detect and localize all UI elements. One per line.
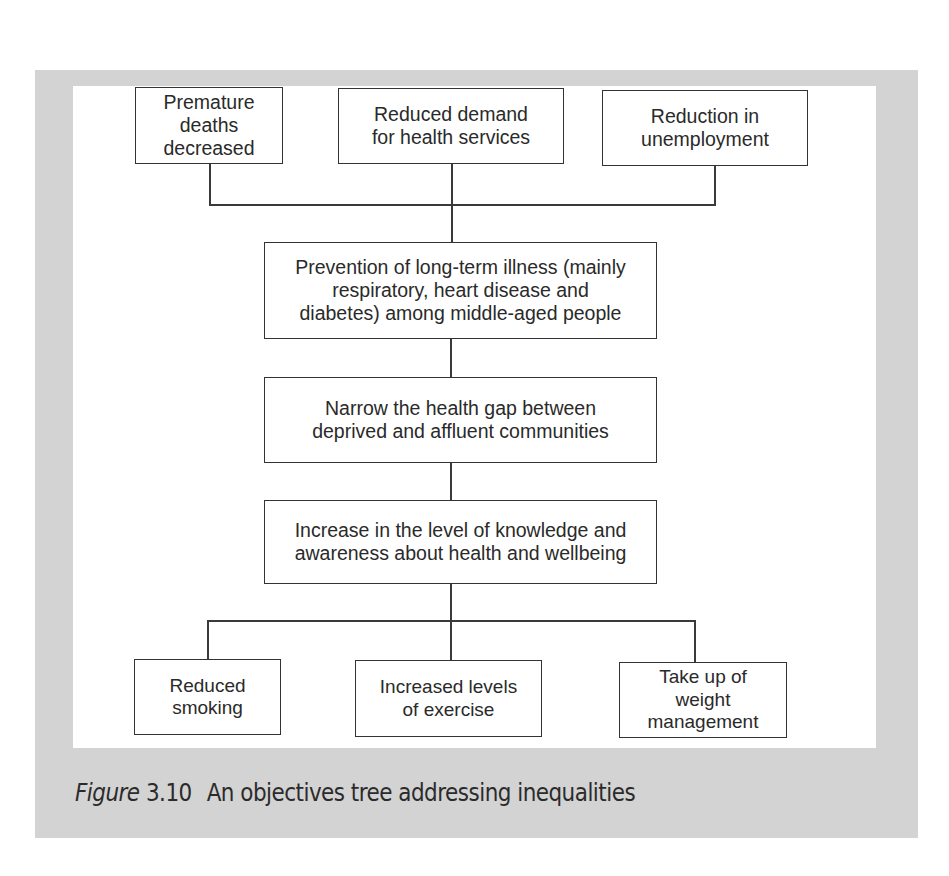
node-reduced-smoking: Reduced smoking — [134, 659, 281, 735]
node-text: Premature deaths decreased — [163, 91, 254, 160]
node-line: Reduced — [169, 675, 245, 698]
node-text: Increased levels of exercise — [380, 676, 517, 721]
connector-weight-management — [694, 620, 696, 662]
connector-gap-to-knowledge — [450, 463, 452, 500]
node-text: Reduced demand for health services — [372, 103, 530, 149]
node-line: Prevention of long-term illness (mainly — [295, 256, 626, 279]
node-text: Reduced smoking — [169, 675, 245, 720]
figure-label: Figure — [75, 778, 140, 807]
node-line: management — [648, 711, 759, 734]
node-line: unemployment — [641, 128, 769, 151]
connector-knowledge-down — [450, 584, 452, 660]
node-text: Prevention of long-term illness (mainly … — [295, 256, 626, 325]
node-line: smoking — [169, 697, 245, 720]
node-line: Increased levels — [380, 676, 517, 699]
node-line: Reduced demand — [372, 103, 530, 126]
figure-title: An objectives tree addressing inequaliti… — [207, 778, 635, 807]
node-increase-knowledge: Increase in the level of knowledge and a… — [264, 500, 657, 584]
node-line: deaths — [163, 114, 254, 137]
connector-reduced-smoking — [207, 620, 209, 659]
connector-top-bar — [209, 204, 715, 206]
connector-premature-deaths — [209, 164, 211, 206]
connector-prevention-to-gap — [450, 339, 452, 377]
node-line: diabetes) among middle-aged people — [295, 302, 626, 325]
node-weight-management: Take up of weight management — [619, 662, 787, 738]
node-prevention-illness: Prevention of long-term illness (mainly … — [264, 242, 657, 339]
node-increased-exercise: Increased levels of exercise — [355, 660, 542, 737]
node-narrow-health-gap: Narrow the health gap between deprived a… — [264, 377, 657, 463]
connector-reduction-unemployment — [714, 166, 716, 206]
figure-number: 3.10 — [146, 778, 192, 807]
node-line: Increase in the level of knowledge and — [295, 519, 627, 542]
node-line: Narrow the health gap between — [312, 397, 609, 420]
figure-caption: Figure 3.10 An objectives tree addressin… — [75, 778, 635, 807]
node-line: respiratory, heart disease and — [295, 279, 626, 302]
node-reduced-demand: Reduced demand for health services — [338, 88, 564, 164]
node-line: weight — [648, 689, 759, 712]
node-text: Take up of weight management — [648, 666, 759, 734]
node-line: for health services — [372, 126, 530, 149]
node-premature-deaths: Premature deaths decreased — [135, 87, 283, 164]
node-line: Reduction in — [641, 105, 769, 128]
node-line: of exercise — [380, 699, 517, 722]
node-line: Premature — [163, 91, 254, 114]
connector-reduced-demand — [451, 164, 453, 242]
node-text: Narrow the health gap between deprived a… — [312, 397, 609, 443]
node-text: Increase in the level of knowledge and a… — [295, 519, 627, 565]
node-line: decreased — [163, 137, 254, 160]
connector-bottom-bar — [207, 620, 695, 622]
node-line: Take up of — [648, 666, 759, 689]
node-line: deprived and affluent communities — [312, 420, 609, 443]
node-line: awareness about health and wellbeing — [295, 542, 627, 565]
node-text: Reduction in unemployment — [641, 105, 769, 151]
node-reduction-unemployment: Reduction in unemployment — [602, 90, 808, 166]
